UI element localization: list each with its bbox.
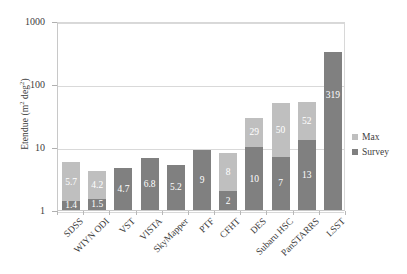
bar-group[interactable]: 5.71.4	[62, 21, 80, 210]
legend-item[interactable]: Survey	[352, 147, 389, 157]
bar-value-label-survey: 1.4	[62, 200, 80, 210]
bar-value-label-max: 52	[298, 116, 316, 126]
bar-value-label-survey: 5.2	[167, 182, 185, 192]
y-axis-tick-label: 1	[5, 206, 45, 216]
bar-group[interactable]: 82	[219, 21, 237, 210]
legend-item-label: Max	[362, 132, 379, 142]
x-axis-tick-mark	[319, 211, 320, 215]
bar-value-label-survey: 13	[298, 170, 316, 180]
bar-group[interactable]: 507	[272, 21, 290, 210]
bar-value-label-max: 8	[219, 167, 237, 177]
y-axis-tick-label: 1000	[5, 17, 45, 27]
y-axis-title: Etendue (m2 deg2)	[18, 44, 30, 184]
bar-value-label-survey: 7	[272, 178, 290, 188]
bar-group[interactable]: 6.8	[141, 21, 159, 210]
bar-value-label-survey: 319	[324, 90, 342, 100]
legend-item-label: Survey	[362, 147, 389, 157]
x-axis-tick-mark	[345, 211, 346, 215]
legend-swatch-icon	[352, 149, 358, 155]
y-axis-tick-label: 10	[5, 143, 45, 153]
bar-value-label-survey: 1.5	[88, 199, 106, 209]
bar-group[interactable]: 4.21.5	[88, 21, 106, 210]
bar-value-label-max: 29	[245, 127, 263, 137]
bar-group[interactable]: 5213	[298, 21, 316, 210]
x-axis-category-label: SDSS	[0, 216, 85, 274]
bar-value-label-max: 50	[272, 125, 290, 135]
x-axis-tick-mark	[136, 211, 137, 215]
x-axis-tick-mark	[240, 211, 241, 215]
bar-group[interactable]: 9	[193, 21, 211, 210]
bar-value-label-survey: 9	[193, 175, 211, 185]
gridline	[58, 212, 344, 213]
bar-value-label-survey: 10	[245, 174, 263, 184]
bar-value-label-survey: 2	[219, 196, 237, 206]
bar-value-label-survey: 4.7	[114, 184, 132, 194]
x-axis-tick-mark	[162, 211, 163, 215]
x-axis-tick-mark	[293, 211, 294, 215]
y-axis-tick-label: 100	[5, 80, 45, 90]
x-axis-tick-mark	[57, 211, 58, 215]
bar-group[interactable]: 2910	[245, 21, 263, 210]
bar-value-label-max: 5.7	[62, 177, 80, 187]
x-axis-tick-mark	[214, 211, 215, 215]
bar-group[interactable]: 5.2	[167, 21, 185, 210]
x-axis-tick-mark	[109, 211, 110, 215]
bar-chart: Etendue (m2 deg2) 1000100101 5.71.44.21.…	[0, 0, 407, 274]
x-axis-tick-mark	[83, 211, 84, 215]
bar-value-label-survey: 6.8	[141, 179, 159, 189]
bar-group[interactable]: 4.7	[114, 21, 132, 210]
x-axis-tick-mark	[188, 211, 189, 215]
legend-item[interactable]: Max	[352, 132, 389, 142]
chart-legend: MaxSurvey	[352, 132, 389, 162]
bar-segment-survey[interactable]	[324, 52, 342, 210]
y-axis-title-sup-1: 2	[18, 101, 25, 104]
bar-value-label-max: 4.2	[88, 180, 106, 190]
bar-group[interactable]: 319	[324, 21, 342, 210]
plot-area: 5.71.44.21.54.76.85.298229105075213319	[57, 22, 345, 211]
legend-swatch-icon	[352, 134, 358, 140]
x-axis-tick-mark	[266, 211, 267, 215]
